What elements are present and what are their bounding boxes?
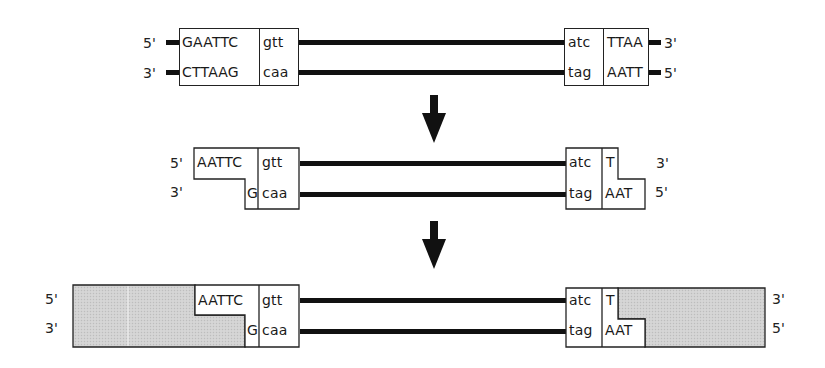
- left-bottom-3prime-label: 3': [45, 320, 58, 336]
- left-bottom-overhang: G: [247, 185, 258, 201]
- left-top-flank: gtt: [262, 292, 282, 308]
- left-top-stub: [166, 40, 180, 45]
- left-bottom-flank: caa: [262, 322, 287, 338]
- left-top-site: GAATTC: [182, 34, 238, 50]
- right-bottom-stub: [649, 70, 661, 75]
- top-strand: [299, 40, 565, 45]
- left-bottom-stub: [166, 70, 180, 75]
- left-bottom-flank: caa: [262, 185, 287, 201]
- right-top-flank: atc: [569, 154, 591, 170]
- right-bottom-flank: tag: [569, 322, 593, 338]
- right-top-3prime-label: 3': [772, 291, 785, 307]
- left-top-5prime-label: 5': [170, 155, 183, 171]
- right-bottom-5prime-label: 5': [664, 65, 677, 81]
- left-bottom-overhang: G: [247, 322, 258, 338]
- left-bottom-3prime-label: 3': [170, 184, 183, 200]
- right-top-site: TTAA: [607, 34, 643, 50]
- left-bottom-flank: caa: [263, 64, 288, 80]
- right-top-stub: [649, 40, 661, 45]
- right-bottom-flank: tag: [568, 64, 592, 80]
- right-top-flank: atc: [568, 34, 590, 50]
- right-top-3prime-label: 3': [656, 155, 669, 171]
- bottom-strand: [300, 192, 567, 197]
- right-top-overhang: T: [606, 154, 615, 170]
- right-bottom-site: AATT: [607, 64, 643, 80]
- right-box-divider: [603, 28, 604, 86]
- top-strand: [300, 298, 567, 303]
- right-bottom-5prime-label: 5': [655, 184, 668, 200]
- right-bottom-overhang: AAT: [605, 322, 633, 338]
- down-arrow-icon: [421, 93, 447, 145]
- right-top-flank: atc: [569, 292, 591, 308]
- right-bottom-flank: tag: [569, 185, 593, 201]
- left-top-5prime-label: 5': [143, 35, 156, 51]
- left-box-divider: [259, 28, 260, 86]
- bottom-strand: [299, 70, 565, 75]
- left-top-5prime-label: 5': [45, 291, 58, 307]
- right-bottom-overhang: AAT: [605, 185, 633, 201]
- left-bottom-site: CTTAAG: [182, 64, 239, 80]
- left-top-overhang: AATTC: [197, 154, 242, 170]
- left-top-flank: gtt: [262, 154, 282, 170]
- down-arrow-icon: [421, 219, 447, 271]
- top-strand: [300, 161, 567, 166]
- left-top-overhang: AATTC: [198, 292, 243, 308]
- left-bottom-3prime-label: 3': [143, 65, 156, 81]
- left-top-flank: gtt: [263, 34, 283, 50]
- right-vector-ligation-block: [565, 287, 767, 349]
- right-top-overhang: T: [606, 292, 615, 308]
- right-top-3prime-label: 3': [664, 35, 677, 51]
- right-bottom-5prime-label: 5': [772, 320, 785, 336]
- bottom-strand: [300, 329, 567, 334]
